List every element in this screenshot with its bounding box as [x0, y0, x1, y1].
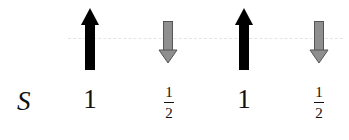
- fraction-denominator: 2: [157, 105, 181, 121]
- fraction-numerator: 1: [157, 84, 181, 100]
- spin-value-4: 1 2: [307, 84, 331, 121]
- spin-down-arrow-2: [310, 22, 328, 64]
- spin-label-s: S: [17, 86, 31, 117]
- fraction-bar: [164, 102, 174, 103]
- spin-up-arrow-1: [81, 8, 99, 70]
- spin-down-arrow-1: [159, 22, 177, 64]
- fraction-numerator: 1: [307, 84, 331, 100]
- spin-value-1: 1: [75, 84, 105, 115]
- spin-value-3: 1: [229, 84, 259, 115]
- spin-up-arrow-2: [235, 8, 253, 70]
- spin-value-2: 1 2: [157, 84, 181, 121]
- fraction-denominator: 2: [307, 105, 331, 121]
- fraction-bar: [314, 102, 324, 103]
